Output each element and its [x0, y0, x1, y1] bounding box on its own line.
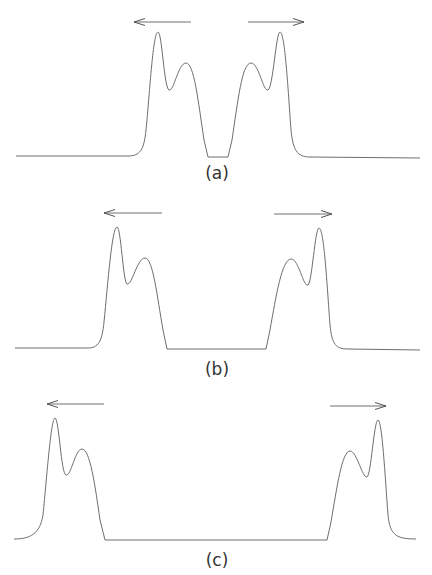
profile-curve-a [16, 32, 420, 158]
diagram-canvas: (a) (b) (c) [0, 0, 432, 575]
panel-label-b: (b) [205, 359, 229, 379]
profile-curve-b [15, 227, 420, 350]
panel-label-c: (c) [206, 550, 229, 570]
panel-a: (a) [16, 22, 420, 183]
panel-b: (b) [15, 213, 420, 379]
panel-c: (c) [14, 404, 416, 570]
profile-curve-c [14, 418, 416, 540]
panel-label-a: (a) [205, 163, 229, 183]
